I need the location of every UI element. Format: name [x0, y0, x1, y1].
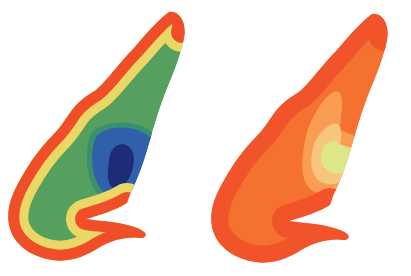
figure-canvas — [0, 0, 411, 276]
contour-maps-figure — [0, 0, 411, 276]
right-contour-map — [211, 14, 387, 263]
left-contour-map — [8, 12, 184, 261]
